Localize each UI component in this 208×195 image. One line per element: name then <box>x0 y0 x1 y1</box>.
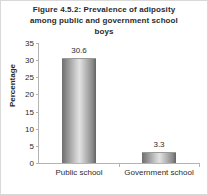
y-axis-tick-label: 25 <box>4 73 39 82</box>
x-axis-category-label: Government school <box>124 168 193 177</box>
bar-value-label: 30.6 <box>71 46 87 55</box>
chart-title-line-2: among public and government school <box>11 15 197 26</box>
chart-title: Figure 4.5.2: Prevalence of adiposity am… <box>11 4 197 37</box>
bar-group: 3.3Government school <box>119 43 199 163</box>
y-axis-tick-label: 30 <box>4 56 39 65</box>
chart-title-line-1: Figure 4.5.2: Prevalence of adiposity <box>11 4 197 15</box>
y-axis-tick-label: 0 <box>4 159 39 168</box>
y-axis-tick-label: 15 <box>4 107 39 116</box>
y-axis-tick-label: 10 <box>4 124 39 133</box>
x-axis-separator-tick <box>119 163 120 167</box>
x-axis-category-label: Public school <box>55 168 102 177</box>
y-axis-tick-label: 35 <box>4 39 39 48</box>
x-axis-end-tick <box>199 163 200 167</box>
y-axis-tick-label: 5 <box>4 141 39 150</box>
chart-figure: Figure 4.5.2: Prevalence of adiposity am… <box>0 0 208 195</box>
bar-group: 30.6Public school <box>39 43 119 163</box>
bar-1[interactable] <box>62 58 96 163</box>
y-axis-tick-label: 20 <box>4 90 39 99</box>
bar-value-label: 3.3 <box>153 140 164 149</box>
chart-title-line-3: boys <box>11 26 197 37</box>
plot-area: 0510152025303530.6Public school3.3Govern… <box>38 43 199 164</box>
y-axis-tick-mark <box>36 163 39 164</box>
bar-2[interactable] <box>142 152 176 163</box>
